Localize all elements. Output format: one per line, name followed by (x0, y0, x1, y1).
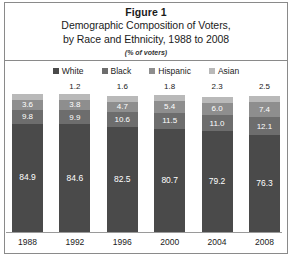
segment-white: 84.6 (59, 124, 90, 232)
stacked-bar-2004[interactable]: 2.36.011.079.2 (202, 82, 233, 232)
segment-value-label: 11.0 (210, 119, 225, 128)
asian-value-label: 1.6 (107, 82, 138, 91)
segment-value-label: 76.3 (256, 179, 273, 188)
legend-swatch-icon (209, 68, 215, 74)
x-axis-label-2008: 2008 (249, 236, 280, 250)
figure-title-line-2: by Race and Ethnicity, 1988 to 2008 (5, 33, 287, 47)
legend-item-white[interactable]: White (53, 66, 84, 76)
segment-value-label: 6.0 (212, 104, 223, 113)
x-axis-label-1992: 1992 (59, 236, 90, 250)
segment-value-label: 9.9 (69, 113, 80, 122)
segment-black: 9.8 (12, 110, 43, 124)
segment-white: 82.5 (107, 127, 138, 232)
asian-value-label: 1.8 (154, 82, 185, 91)
stacked-bar-2008[interactable]: 2.57.412.176.3 (249, 82, 280, 232)
segment-value-label: 3.8 (69, 100, 80, 109)
x-axis-label-2004: 2004 (202, 236, 233, 250)
stacked-bar-1992[interactable]: 1.23.89.984.6 (59, 82, 90, 232)
segment-value-label: 4.7 (117, 102, 128, 111)
segment-black: 11.0 (202, 115, 233, 131)
x-axis-label-2000: 2000 (154, 236, 185, 250)
figure-title-block: Figure 1 Demographic Composition of Vote… (5, 3, 287, 60)
segment-white: 80.7 (154, 129, 185, 232)
segment-black: 12.1 (249, 117, 280, 134)
x-axis-line (6, 232, 282, 233)
asian-value-label: 2.3 (202, 82, 233, 91)
segment-white: 76.3 (249, 135, 280, 232)
segment-value-label: 82.5 (114, 175, 131, 184)
segment-black: 9.9 (59, 110, 90, 124)
figure-container: Figure 1 Demographic Composition of Vote… (0, 0, 292, 267)
segment-hispanic: 4.7 (107, 102, 138, 112)
segment-hispanic: 3.8 (59, 100, 90, 110)
segment-value-label: 7.4 (259, 105, 270, 114)
source-note-strip (6, 258, 288, 267)
segment-value-label: 80.7 (161, 176, 178, 185)
stacked-bar-1988[interactable]: 3.69.884.9 (12, 82, 43, 232)
x-axis-label-1988: 1988 (12, 236, 43, 250)
segment-value-label: 3.6 (22, 100, 33, 109)
chart-legend: WhiteBlackHispanicAsian (5, 64, 287, 78)
legend-item-hispanic[interactable]: Hispanic (149, 66, 191, 76)
segment-white: 79.2 (202, 131, 233, 232)
segment-value-label: 5.4 (164, 102, 175, 111)
title-divider (5, 60, 287, 61)
asian-value-label: 1.2 (59, 82, 90, 91)
segment-value-label: 9.8 (22, 112, 33, 121)
segment-value-label: 10.6 (114, 115, 130, 124)
legend-swatch-icon (102, 68, 108, 74)
segment-value-label: 84.6 (67, 174, 84, 183)
figure-units-note: (% of voters) (5, 47, 287, 58)
legend-item-label: Black (111, 66, 132, 76)
legend-item-black[interactable]: Black (102, 66, 132, 76)
figure-title-line-1: Demographic Composition of Voters, (5, 19, 287, 33)
asian-value-label: 2.5 (249, 82, 280, 91)
stacked-bars-row: 3.69.884.91.23.89.984.61.64.710.682.51.8… (12, 82, 280, 232)
segment-black: 10.6 (107, 112, 138, 127)
segment-value-label: 12.1 (257, 122, 273, 131)
legend-item-label: Asian (218, 66, 239, 76)
legend-swatch-icon (149, 68, 155, 74)
segment-hispanic: 3.6 (12, 100, 43, 110)
figure-number: Figure 1 (5, 6, 287, 19)
legend-item-label: White (62, 66, 84, 76)
segment-hispanic: 6.0 (202, 103, 233, 116)
chart-plot-area: 3.69.884.91.23.89.984.61.64.710.682.51.8… (12, 82, 280, 232)
segment-value-label: 79.2 (209, 177, 226, 186)
legend-item-label: Hispanic (158, 66, 191, 76)
legend-swatch-icon (53, 68, 59, 74)
legend-item-asian[interactable]: Asian (209, 66, 239, 76)
segment-value-label: 11.5 (162, 116, 177, 125)
segment-hispanic: 5.4 (154, 101, 185, 112)
stacked-bar-2000[interactable]: 1.85.411.580.7 (154, 82, 185, 232)
x-axis-label-1996: 1996 (107, 236, 138, 250)
segment-black: 11.5 (154, 113, 185, 130)
segment-white: 84.9 (12, 124, 43, 232)
segment-hispanic: 7.4 (249, 102, 280, 118)
segment-value-label: 84.9 (19, 173, 36, 182)
stacked-bar-1996[interactable]: 1.64.710.682.5 (107, 82, 138, 232)
x-axis-labels: 198819921996200020042008 (12, 236, 280, 250)
